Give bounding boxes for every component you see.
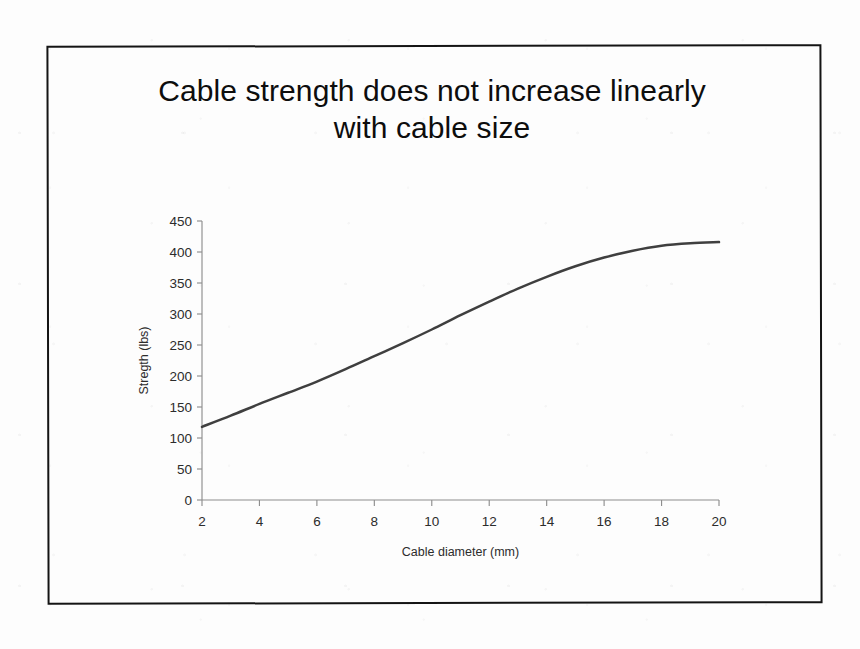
x-axis-title: Cable diameter (mm) <box>402 545 519 559</box>
title-line-2: with cable size <box>62 109 802 146</box>
y-tick-label: 250 <box>169 338 192 353</box>
axis-tick-marks <box>197 221 719 506</box>
y-tick-label: 300 <box>169 307 192 322</box>
y-tick-label: 50 <box>177 462 192 477</box>
x-tick-label: 6 <box>313 514 321 529</box>
y-tick-label: 450 <box>169 214 192 229</box>
title-line-1: Cable strength does not increase linearl… <box>62 72 802 109</box>
x-tick-label: 14 <box>539 514 555 529</box>
chart-container: 050100150200250300350400450 246810121416… <box>130 200 750 570</box>
x-tick-label: 16 <box>597 514 612 529</box>
y-tick-label: 200 <box>169 369 192 384</box>
x-axis-tick-labels: 2468101214161820 <box>198 514 726 529</box>
x-tick-label: 8 <box>371 514 379 529</box>
y-axis-title: Stregth (lbs) <box>137 326 151 394</box>
y-axis-tick-labels: 050100150200250300350400450 <box>169 214 192 508</box>
x-tick-label: 20 <box>711 514 726 529</box>
y-tick-label: 400 <box>169 245 192 260</box>
page-title: Cable strength does not increase linearl… <box>62 72 802 146</box>
line-chart-svg: 050100150200250300350400450 246810121416… <box>130 200 750 570</box>
y-tick-label: 0 <box>184 493 192 508</box>
slide-page: Cable strength does not increase linearl… <box>0 0 860 649</box>
x-tick-label: 4 <box>256 514 264 529</box>
y-tick-label: 350 <box>169 276 192 291</box>
data-series-line <box>202 242 719 427</box>
x-tick-label: 18 <box>654 514 669 529</box>
y-tick-label: 150 <box>169 400 192 415</box>
x-tick-label: 10 <box>424 514 439 529</box>
x-tick-label: 12 <box>482 514 497 529</box>
x-tick-label: 2 <box>198 514 206 529</box>
y-tick-label: 100 <box>169 431 192 446</box>
